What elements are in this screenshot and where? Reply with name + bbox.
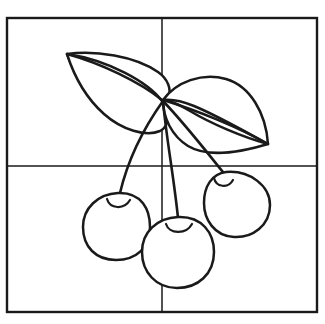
right-cherry-body [204, 172, 270, 237]
left-cherry-body [83, 193, 150, 260]
cherries-illustration [0, 0, 325, 324]
page-root [0, 0, 325, 324]
middle-cherry-body [142, 217, 214, 288]
